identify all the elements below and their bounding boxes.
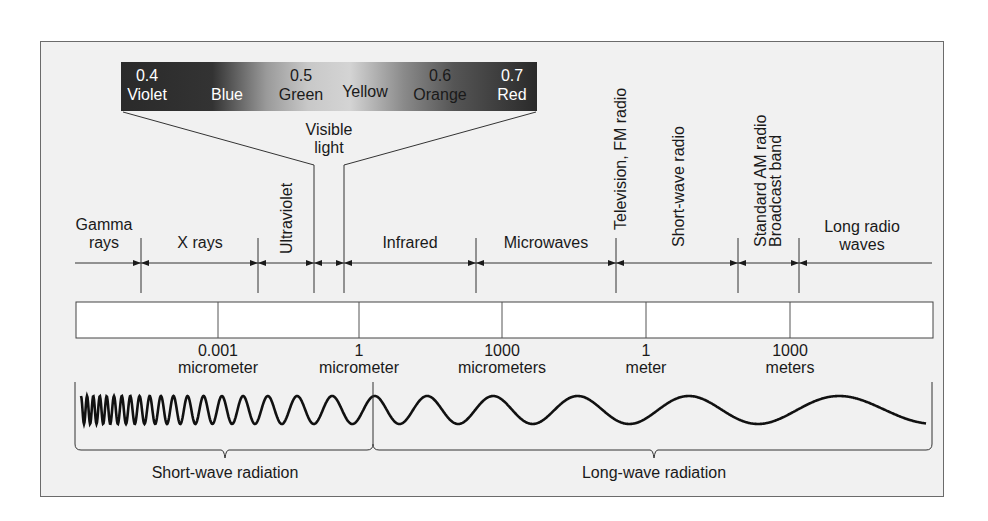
band-short-wave-radio: Short-wave radio	[670, 126, 687, 247]
short-wave-radiation-label: Short-wave radiation	[152, 464, 299, 481]
orange-label: Orange	[413, 86, 466, 103]
band-microwaves: Microwaves	[504, 234, 588, 251]
scale-unit-4: meter	[626, 359, 668, 376]
visible-light-label-1: Visible	[306, 121, 353, 138]
scale-unit-2: micrometer	[319, 359, 400, 376]
scale-value-5: 1000	[772, 342, 808, 359]
radiation-braces	[75, 382, 932, 458]
scale-value-1: 0.001	[198, 342, 238, 359]
red-value: 0.7	[501, 67, 523, 84]
orange-value: 0.6	[429, 67, 451, 84]
band-xrays: X rays	[177, 234, 222, 251]
visible-light-label-2: light	[314, 139, 344, 156]
band-am-radio-2: Broadcast band	[767, 135, 784, 247]
long-wave-radiation-label: Long-wave radiation	[582, 464, 726, 481]
yellow-label: Yellow	[342, 83, 388, 100]
visible-spectrum-bar: 0.4 Violet Blue 0.5 Green Yellow 0.6 Ora…	[121, 62, 537, 111]
scale-value-3: 1000	[484, 342, 520, 359]
violet-value: 0.4	[136, 67, 158, 84]
band-ultraviolet: Ultraviolet	[278, 182, 295, 254]
wave-curve	[81, 396, 926, 424]
band-infrared: Infrared	[382, 234, 437, 251]
electromagnetic-spectrum-diagram: 0.4 Violet Blue 0.5 Green Yellow 0.6 Ora…	[0, 0, 988, 521]
scale-unit-1: micrometer	[178, 359, 259, 376]
band-gamma-1: Gamma	[76, 216, 133, 233]
wavelength-scale-bar	[76, 302, 933, 338]
band-long-radio-2: waves	[838, 236, 884, 253]
violet-label: Violet	[127, 86, 167, 103]
scale-unit-3: micrometers	[458, 359, 546, 376]
band-gamma-2: rays	[89, 234, 119, 251]
band-television-fm: Television, FM radio	[612, 88, 629, 230]
green-label: Green	[279, 86, 323, 103]
band-dividers	[141, 238, 799, 293]
green-value: 0.5	[290, 67, 312, 84]
blue-label: Blue	[211, 86, 243, 103]
scale-unit-5: meters	[766, 359, 815, 376]
band-long-radio-1: Long radio	[824, 218, 900, 235]
scale-value-4: 1	[642, 342, 651, 359]
red-label: Red	[497, 86, 526, 103]
scale-value-2: 1	[355, 342, 364, 359]
